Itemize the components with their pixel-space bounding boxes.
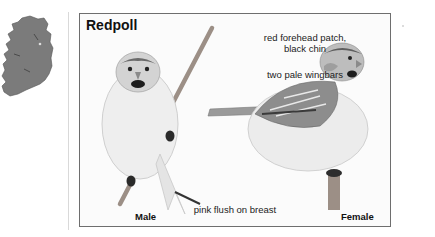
- scan-speck: [402, 25, 404, 27]
- ireland-locator-map: [0, 14, 56, 100]
- annotation-breast: pink flush on breast: [180, 204, 290, 215]
- redpoll-plate: Redpoll red forehead pat: [79, 13, 391, 227]
- label-female: Female: [341, 211, 374, 222]
- column-divider: [68, 12, 69, 230]
- annotation-forehead-text: red forehead patch,: [264, 32, 346, 43]
- annotation-wingbars: two pale wingbars: [250, 69, 360, 80]
- ireland-map-icon: [0, 14, 56, 100]
- annotation-chin-text: black chin: [284, 43, 326, 54]
- label-male: Male: [135, 211, 156, 222]
- annotation-forehead: red forehead patch, black chin: [250, 32, 360, 54]
